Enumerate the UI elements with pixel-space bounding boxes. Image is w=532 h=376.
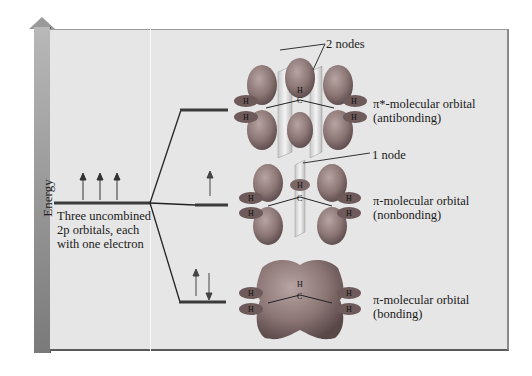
svg-text:C: C — [297, 292, 302, 301]
antibonding-title: π*-molecular orbital — [373, 97, 475, 111]
svg-text:H: H — [351, 113, 357, 122]
svg-text:C: C — [297, 96, 302, 105]
mo-levels — [179, 110, 228, 302]
svg-text:H: H — [351, 97, 357, 106]
svg-text:H: H — [243, 113, 249, 122]
svg-text:H: H — [248, 194, 254, 203]
svg-text:H: H — [346, 289, 352, 298]
nonbonding-subtitle: (nonbonding) — [373, 208, 441, 222]
svg-text:H: H — [248, 289, 254, 298]
antibonding-subtitle: (antibonding) — [373, 111, 441, 125]
nonbonding-node-label: 1 node — [372, 148, 406, 162]
uncombined-caption-line-1: Three uncombined — [57, 209, 151, 223]
antibonding-node-label: 2 nodes — [326, 37, 365, 51]
svg-text:H: H — [297, 280, 303, 289]
svg-text:H: H — [297, 86, 303, 95]
uncombined-caption-line-3: with one electron — [57, 237, 144, 251]
svg-text:C: C — [297, 194, 302, 203]
nonbonding-title: π-molecular orbital — [373, 194, 469, 208]
mo-diagram-graphic: HH HH HC HH HH HC HH HH HC — [0, 0, 532, 376]
svg-text:H: H — [346, 305, 352, 314]
bonding-title: π-molecular orbital — [373, 293, 469, 307]
svg-text:H: H — [297, 181, 303, 190]
svg-text:H: H — [243, 97, 249, 106]
svg-text:H: H — [248, 305, 254, 314]
correlation-lines — [150, 110, 195, 302]
uncombined-caption-line-2: 2p orbitals, each — [57, 223, 139, 237]
uncombined-level — [54, 173, 150, 203]
svg-text:H: H — [346, 209, 352, 218]
svg-text:H: H — [346, 194, 352, 203]
bonding-subtitle: (bonding) — [373, 307, 422, 321]
svg-text:H: H — [248, 209, 254, 218]
